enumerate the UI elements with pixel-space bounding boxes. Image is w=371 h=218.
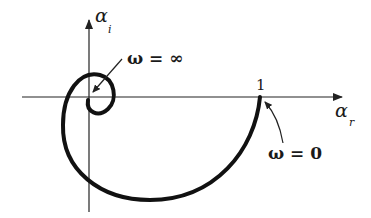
real-axis-label: α (335, 99, 348, 121)
real-axis-subscript: r (349, 116, 355, 129)
imaginary-axis-subscript: i (108, 23, 112, 36)
omega-infinity-label: ω = ∞ (127, 48, 183, 68)
imaginary-axis-label: α (95, 4, 108, 26)
tick-label-one: 1 (256, 76, 266, 94)
omega-zero-label: ω = 0 (268, 143, 322, 163)
omega-zero-pointer (265, 102, 283, 143)
nyquist-curve (63, 74, 260, 200)
nyquist-diagram: α i α r 1 ω = ∞ ω = 0 (0, 0, 371, 218)
